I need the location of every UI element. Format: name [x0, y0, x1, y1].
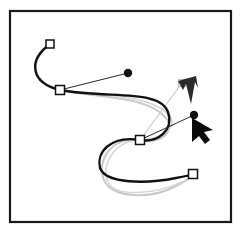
- anchor-node-2[interactable]: [56, 86, 65, 95]
- bezier-editor-screenshot: Bezier Path Editor Canvas Vector path be…: [0, 0, 241, 234]
- anchor-node-1[interactable]: [46, 40, 54, 48]
- control-handle-upper[interactable]: [124, 69, 132, 77]
- anchor-node-4[interactable]: [189, 170, 198, 179]
- canvas-frame[interactable]: [0, 0, 241, 234]
- canvas-background: [0, 0, 241, 234]
- anchor-node-3[interactable]: [136, 136, 145, 145]
- control-handle-lower[interactable]: [190, 111, 198, 119]
- vector-canvas[interactable]: [0, 0, 241, 234]
